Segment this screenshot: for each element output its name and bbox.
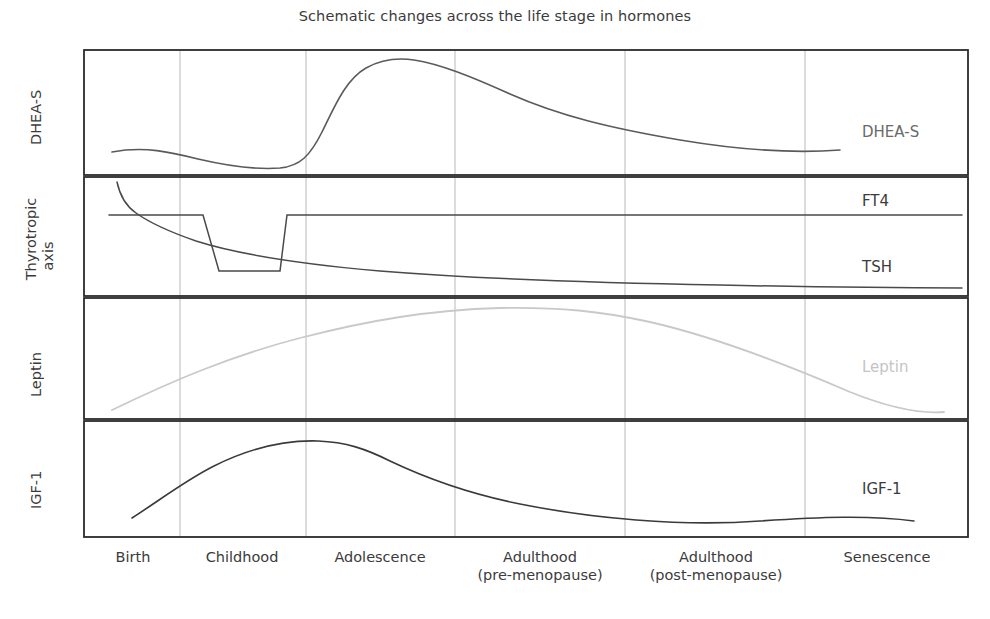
x-tick-birth-line1: Birth (83, 548, 183, 566)
x-tick-adulthood-post-line1: Adulthood (627, 548, 805, 566)
series-label-tsh: TSH (862, 258, 892, 276)
x-tick-adolescence-line1: Adolescence (310, 548, 450, 566)
series-label-ft4: FT4 (862, 192, 889, 210)
x-tick-senescence-line1: Senescence (806, 548, 968, 566)
x-tick-adulthood-pre-line2: (pre-menopause) (455, 566, 625, 584)
hormone-life-stage-figure: Schematic changes across the life stage … (0, 0, 990, 619)
series-label-leptin: Leptin (862, 358, 908, 376)
plot-area (0, 0, 990, 619)
x-tick-adulthood-post: Adulthood (post-menopause) (627, 548, 805, 584)
x-tick-senescence: Senescence (806, 548, 968, 566)
x-tick-adulthood-pre-line1: Adulthood (455, 548, 625, 566)
x-tick-adulthood-post-line2: (post-menopause) (627, 566, 805, 584)
x-tick-adolescence: Adolescence (310, 548, 450, 566)
x-tick-childhood-line1: Childhood (182, 548, 302, 566)
series-label-dhea-s: DHEA-S (862, 123, 919, 141)
x-tick-childhood: Childhood (182, 548, 302, 566)
x-tick-adulthood-pre: Adulthood (pre-menopause) (455, 548, 625, 584)
x-tick-birth: Birth (83, 548, 183, 566)
series-label-igf1: IGF-1 (862, 480, 902, 498)
